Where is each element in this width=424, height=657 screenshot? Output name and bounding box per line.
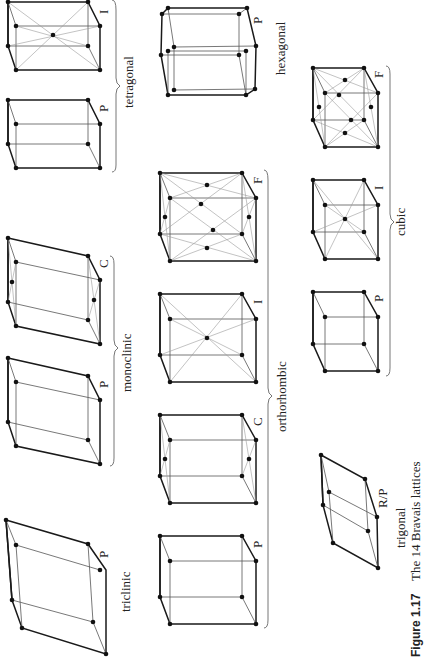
lattice-orthorhombic-P: P: [158, 534, 265, 627]
lattice-hexagonal-P: P: [159, 6, 265, 98]
lattice-orthorhombic-C: C: [158, 413, 265, 506]
lattice-monoclinic-P: P: [6, 356, 111, 467]
label-cub-I: I: [371, 186, 386, 190]
caption-number: Figure 1.17: [409, 593, 423, 657]
lattice-cubic-I: I: [311, 178, 386, 262]
label-mono-C: C: [96, 259, 111, 268]
label-cubic: cubic: [393, 208, 408, 236]
label-tet-I: I: [96, 10, 111, 14]
label-cub-F: F: [371, 71, 386, 78]
figure-caption: Figure 1.17 The 14 Bravais lattices: [408, 462, 423, 657]
lattice-cubic-P: P: [311, 290, 386, 374]
label-trigonal: trigonal: [393, 507, 408, 548]
brace-monoclinic: [110, 256, 118, 466]
label-monoclinic: monoclinic: [119, 333, 134, 392]
brace-tetragonal: [112, 0, 120, 172]
brace-orthorhombic: [264, 170, 272, 628]
lattice-monoclinic-C: C: [6, 236, 111, 347]
label-hexagonal: hexagonal: [273, 21, 288, 75]
lattice-tetragonal-I: I: [6, 0, 111, 72]
label-tri-P: P: [96, 551, 111, 558]
lattice-cubic-F: F: [311, 66, 386, 150]
label-mono-P: P: [96, 381, 111, 388]
lattice-orthorhombic-F: F: [158, 171, 265, 264]
label-orthorhombic: orthorhombic: [274, 361, 289, 432]
label-hex-P: P: [250, 17, 265, 24]
lattice-trigonal-RP: R/P: [319, 453, 390, 571]
label-ortho-I: I: [250, 300, 265, 304]
label-tet-P: P: [96, 105, 111, 112]
lattice-tetragonal-P: P: [6, 98, 111, 171]
lattice-triclinic-P: P: [4, 518, 111, 657]
label-ortho-F: F: [250, 177, 265, 184]
lattice-orthorhombic-I: I: [158, 292, 265, 385]
bravais-lattices-figure: I P tetragonal: [0, 0, 424, 657]
label-tetragonal: tetragonal: [121, 56, 136, 108]
label-cub-P: P: [371, 295, 386, 302]
label-trig-RP: R/P: [375, 488, 390, 508]
label-ortho-P: P: [250, 541, 265, 548]
label-triclinic: triclinic: [118, 571, 133, 612]
caption-text: The 14 Bravais lattices: [408, 462, 423, 582]
label-ortho-C: C: [250, 417, 265, 426]
